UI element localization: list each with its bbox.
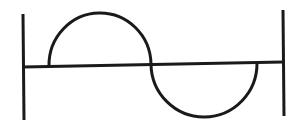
right-boundary-line (283, 10, 284, 116)
horizontal-axis-line (23, 62, 283, 67)
positive-half-cycle-arc (49, 13, 151, 66)
waveform-svg (0, 0, 302, 127)
negative-half-cycle-arc (151, 63, 257, 117)
waveform-diagram (0, 0, 302, 127)
